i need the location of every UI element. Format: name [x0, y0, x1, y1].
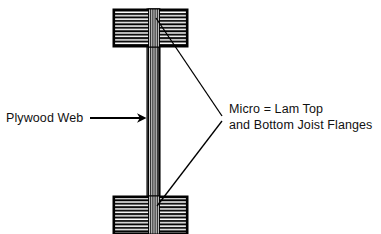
flange-label-line-1: Micro = Lam Top	[229, 101, 372, 117]
bottom-flange-part	[113, 196, 188, 234]
diagram-canvas: Plywood Web Micro = Lam Top and Bottom J…	[0, 0, 381, 234]
flange-label-line-2: and Bottom Joist Flanges	[229, 117, 372, 133]
bottom-flange-leader-line	[157, 121, 222, 206]
plywood-web-arrow	[90, 113, 147, 123]
flange-label: Micro = Lam Top and Bottom Joist Flanges	[229, 101, 372, 133]
top-flange-part	[113, 9, 188, 47]
plywood-web-label: Plywood Web	[6, 110, 83, 126]
plywood-web-label-text: Plywood Web	[6, 110, 83, 126]
top-flange-leader-line	[156, 18, 222, 116]
